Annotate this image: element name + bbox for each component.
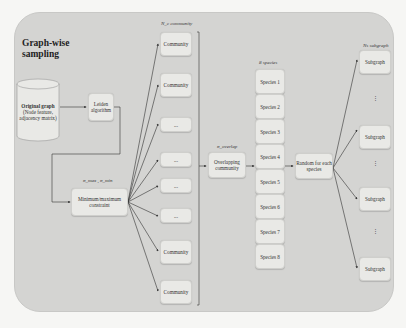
random-for-each-species-node: Random for each species — [295, 153, 333, 179]
original-graph-node: Original graph (Node feature, adjacency … — [17, 94, 59, 130]
species-node: Species 3 — [255, 119, 285, 144]
community-node: Community — [160, 32, 192, 56]
species-node: Species 8 — [255, 244, 285, 269]
communities-header: N_c community — [161, 21, 192, 26]
community-label: Community — [164, 289, 189, 295]
community-node: ... — [160, 117, 192, 132]
species-label: Species 3 — [260, 129, 280, 135]
subgraph-label: Subgraph — [365, 266, 385, 272]
random-label: Random for each species — [296, 160, 332, 172]
community-node: Community — [160, 73, 192, 97]
community-label: ... — [174, 183, 178, 189]
overlap-param: σ_overlap — [217, 144, 237, 149]
species-node: Species 6 — [255, 194, 285, 219]
species-node: Species 4 — [255, 144, 285, 169]
leiden-label: Leiden algorithm — [89, 101, 113, 113]
species-node: Species 5 — [255, 169, 285, 194]
vertical-ellipsis: ⋮ — [373, 228, 378, 234]
community-label: ... — [174, 213, 178, 219]
original-graph-sub: (Node feature, adjacency matrix) — [17, 109, 59, 121]
subgraph-node: Subgraph — [359, 257, 391, 281]
community-label: Community — [164, 41, 189, 47]
vertical-ellipsis: ⋮ — [373, 95, 378, 101]
species-label: Species 2 — [260, 104, 280, 110]
overlapping-community-node: Overlapping community — [208, 152, 246, 178]
minmax-param: σ_max , σ_min — [83, 178, 113, 183]
subgraph-label: Subgraph — [365, 196, 385, 202]
community-label: Community — [164, 249, 189, 255]
subgraph-node: Subgraph — [359, 50, 391, 74]
community-node: ... — [160, 178, 192, 193]
community-label: ... — [174, 122, 178, 128]
species-label: Species 1 — [260, 79, 280, 85]
community-node: ... — [160, 208, 192, 223]
community-node: Community — [160, 280, 192, 304]
vertical-ellipsis: ⋮ — [373, 160, 378, 166]
species-node: Species 2 — [255, 94, 285, 119]
community-node: ... — [160, 152, 192, 167]
species-label: Species 8 — [260, 254, 280, 260]
subgraphs-header: Ns subgraph — [363, 43, 388, 48]
species-label: Species 7 — [260, 229, 280, 235]
species-label: Species 4 — [260, 154, 280, 160]
connector-lines — [0, 0, 406, 328]
species-label: Species 6 — [260, 204, 280, 210]
community-label: Community — [164, 82, 189, 88]
community-label: ... — [174, 157, 178, 163]
community-node: Community — [160, 240, 192, 264]
overlap-label: Overlapping community — [209, 159, 245, 171]
minmax-label: Minimum/maximum constraint — [72, 196, 127, 208]
species-node: Species 7 — [255, 219, 285, 244]
species-header: 8 species — [259, 60, 277, 65]
subgraph-node: Subgraph — [359, 125, 391, 149]
subgraph-node: Subgraph — [359, 187, 391, 211]
subgraph-label: Subgraph — [365, 134, 385, 140]
subgraph-label: Subgraph — [365, 59, 385, 65]
species-node: Species 1 — [255, 69, 285, 94]
species-label: Species 5 — [260, 179, 280, 185]
minmax-constraint-node: Minimum/maximum constraint — [71, 188, 128, 216]
leiden-algorithm-node: Leiden algorithm — [88, 93, 114, 121]
